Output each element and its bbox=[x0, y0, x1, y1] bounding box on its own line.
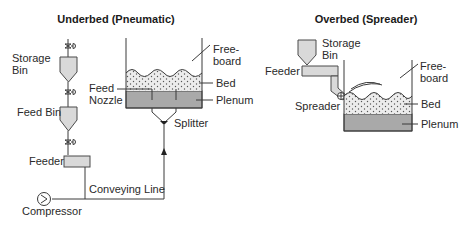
splitter-label: Splitter bbox=[174, 117, 209, 129]
underbed-title: Underbed (Pneumatic) bbox=[57, 13, 175, 25]
feed-nozzle-label: Feed bbox=[89, 82, 114, 94]
feeder-label-overbed: Feeder bbox=[265, 65, 300, 77]
storage-bin-label-overbed: Storage bbox=[322, 37, 361, 49]
bed-overbed bbox=[344, 93, 412, 115]
freeboard-label-underbed-2: board bbox=[213, 55, 241, 67]
fluidized-bed-feeding-diagram: Underbed (Pneumatic) Storage Bin Feed Bi… bbox=[0, 0, 466, 225]
plenum-overbed bbox=[344, 114, 412, 131]
valve-icon bbox=[65, 131, 76, 155]
reactor-underbed bbox=[126, 38, 202, 108]
storage-bin-underbed bbox=[60, 57, 77, 82]
storage-bin-label-overbed-2: Bin bbox=[322, 49, 338, 61]
spreader-label: Spreader bbox=[295, 100, 341, 112]
conveying-line-label: Conveying Line bbox=[89, 183, 165, 195]
freeboard-label-underbed: Free- bbox=[213, 43, 240, 55]
feeder-label-underbed: Feeder bbox=[29, 155, 64, 167]
bed-label-overbed: Bed bbox=[421, 98, 441, 110]
storage-bin-label-underbed: Storage bbox=[12, 52, 51, 64]
reactor-overbed bbox=[344, 60, 412, 131]
overbed-title: Overbed (Spreader) bbox=[315, 13, 418, 25]
feed-bin bbox=[60, 107, 77, 131]
feed-nozzle-label-2: Nozzle bbox=[89, 94, 123, 106]
valve-icon bbox=[65, 39, 76, 57]
flow-arrow-icon bbox=[161, 148, 167, 155]
freeboard-label-overbed: Free- bbox=[420, 60, 447, 72]
valve-icon bbox=[65, 82, 76, 107]
feed-bin-label: Feed Bin bbox=[17, 106, 61, 118]
compressor-icon bbox=[38, 193, 51, 206]
spreader-icon bbox=[338, 93, 345, 100]
plenum-label-overbed: Plenum bbox=[421, 118, 458, 130]
compressor-label: Compressor bbox=[22, 205, 82, 217]
spread-trajectory bbox=[349, 84, 380, 92]
plenum-label-underbed: Plenum bbox=[216, 94, 253, 106]
bed-label-underbed: Bed bbox=[216, 77, 236, 89]
splitter-arrow-icon bbox=[160, 121, 168, 125]
feeder-underbed bbox=[64, 156, 90, 167]
plenum-underbed bbox=[126, 91, 202, 108]
freeboard-label-overbed-2: board bbox=[420, 72, 448, 84]
storage-bin-label-underbed-2: Bin bbox=[12, 64, 28, 76]
feeder-overbed bbox=[302, 66, 338, 76]
storage-bin-overbed bbox=[298, 40, 316, 65]
